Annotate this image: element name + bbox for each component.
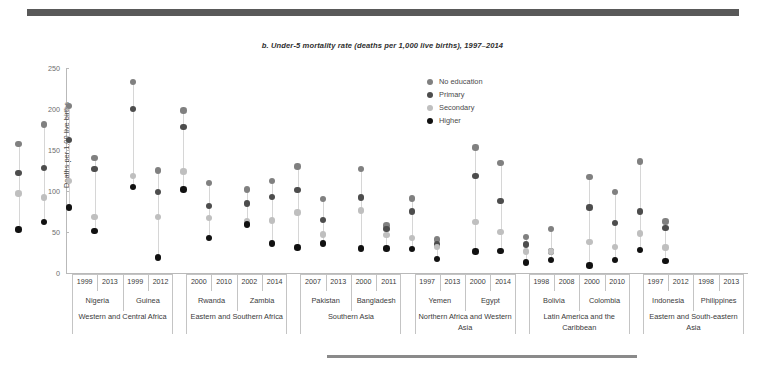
data-point-no-education[interactable]: [66, 103, 72, 109]
data-point-secondary[interactable]: [612, 244, 618, 250]
data-point-no-education[interactable]: [523, 234, 529, 240]
data-point-higher[interactable]: [91, 228, 97, 234]
data-point-no-education[interactable]: [244, 186, 250, 192]
legend-item-higher[interactable]: Higher: [427, 114, 577, 127]
data-point-secondary[interactable]: [523, 248, 529, 254]
data-point-secondary[interactable]: [637, 230, 643, 236]
data-point-primary[interactable]: [269, 194, 275, 200]
data-point-primary[interactable]: [294, 187, 300, 193]
axis-year-label: 1998: [693, 274, 718, 291]
data-point-higher[interactable]: [472, 248, 478, 254]
data-point-primary[interactable]: [586, 204, 592, 210]
data-point-no-education[interactable]: [586, 174, 592, 180]
data-point-primary[interactable]: [155, 189, 161, 195]
axis-country-label: Bangladesh: [351, 291, 402, 311]
data-point-higher[interactable]: [206, 235, 212, 241]
data-point-secondary[interactable]: [91, 214, 97, 220]
data-point-secondary[interactable]: [180, 168, 186, 174]
data-point-secondary[interactable]: [586, 239, 592, 245]
legend-item-no-education[interactable]: No education: [427, 75, 577, 88]
data-point-no-education[interactable]: [612, 189, 618, 195]
data-point-higher[interactable]: [41, 219, 47, 225]
data-point-higher[interactable]: [637, 247, 643, 253]
data-point-no-education[interactable]: [130, 79, 136, 85]
data-point-primary[interactable]: [612, 220, 618, 226]
data-point-higher[interactable]: [434, 256, 440, 262]
data-point-primary[interactable]: [523, 241, 529, 247]
data-point-no-education[interactable]: [41, 121, 47, 127]
data-point-higher[interactable]: [497, 248, 503, 254]
data-point-secondary[interactable]: [66, 178, 72, 184]
data-point-secondary[interactable]: [434, 244, 440, 250]
data-point-higher[interactable]: [662, 258, 668, 264]
data-point-no-education[interactable]: [155, 167, 161, 173]
data-point-higher[interactable]: [66, 204, 72, 210]
data-point-higher[interactable]: [294, 244, 300, 250]
data-point-primary[interactable]: [472, 173, 478, 179]
data-point-secondary[interactable]: [320, 231, 326, 237]
data-point-primary[interactable]: [409, 208, 415, 214]
data-point-secondary[interactable]: [409, 235, 415, 241]
data-point-primary[interactable]: [66, 137, 72, 143]
data-point-no-education[interactable]: [409, 195, 415, 201]
data-point-secondary[interactable]: [358, 207, 364, 213]
data-point-higher[interactable]: [409, 246, 415, 252]
data-point-higher[interactable]: [244, 221, 250, 227]
data-point-primary[interactable]: [358, 194, 364, 200]
data-point-higher[interactable]: [586, 262, 592, 268]
data-point-primary[interactable]: [497, 198, 503, 204]
data-point-higher[interactable]: [523, 259, 529, 265]
data-point-primary[interactable]: [41, 165, 47, 171]
data-point-no-education[interactable]: [358, 166, 364, 172]
data-point-higher[interactable]: [15, 226, 21, 232]
data-point-no-education[interactable]: [472, 144, 478, 150]
data-point-secondary[interactable]: [548, 248, 554, 254]
data-point-higher[interactable]: [320, 240, 326, 246]
data-point-higher[interactable]: [548, 257, 554, 263]
data-point-secondary[interactable]: [15, 190, 21, 196]
data-point-higher[interactable]: [130, 184, 136, 190]
data-point-primary[interactable]: [244, 200, 250, 206]
data-point-higher[interactable]: [180, 186, 186, 192]
data-point-higher[interactable]: [383, 245, 389, 251]
data-point-secondary[interactable]: [497, 229, 503, 235]
data-point-secondary[interactable]: [269, 217, 275, 223]
axis-year-row: 1999201319992012: [72, 274, 173, 291]
data-point-higher[interactable]: [612, 257, 618, 263]
data-point-primary[interactable]: [383, 226, 389, 232]
data-point-secondary[interactable]: [155, 214, 161, 220]
legend-item-secondary[interactable]: Secondary: [427, 101, 577, 114]
data-point-no-education[interactable]: [548, 226, 554, 232]
data-point-primary[interactable]: [662, 225, 668, 231]
data-point-no-education[interactable]: [497, 160, 503, 166]
data-point-secondary[interactable]: [130, 173, 136, 179]
data-point-primary[interactable]: [320, 217, 326, 223]
data-point-primary[interactable]: [15, 170, 21, 176]
data-point-no-education[interactable]: [320, 196, 326, 202]
data-point-primary[interactable]: [130, 106, 136, 112]
data-point-no-education[interactable]: [206, 180, 212, 186]
data-point-higher[interactable]: [269, 240, 275, 246]
data-point-no-education[interactable]: [91, 155, 97, 161]
data-point-secondary[interactable]: [206, 215, 212, 221]
data-point-no-education[interactable]: [662, 218, 668, 224]
data-point-no-education[interactable]: [294, 163, 300, 169]
data-point-higher[interactable]: [358, 245, 364, 251]
data-point-no-education[interactable]: [269, 178, 275, 184]
data-point-secondary[interactable]: [383, 232, 389, 238]
data-point-primary[interactable]: [180, 124, 186, 130]
bottom-divider-rule: [327, 355, 637, 358]
data-point-higher[interactable]: [155, 254, 161, 260]
data-point-primary[interactable]: [206, 203, 212, 209]
connector-line: [183, 111, 184, 190]
data-point-no-education[interactable]: [180, 107, 186, 113]
data-point-primary[interactable]: [91, 166, 97, 172]
data-point-secondary[interactable]: [662, 244, 668, 250]
data-point-secondary[interactable]: [472, 219, 478, 225]
data-point-no-education[interactable]: [637, 158, 643, 164]
data-point-no-education[interactable]: [15, 141, 21, 147]
data-point-secondary[interactable]: [294, 209, 300, 215]
data-point-secondary[interactable]: [41, 194, 47, 200]
data-point-primary[interactable]: [637, 208, 643, 214]
legend-item-primary[interactable]: Primary: [427, 88, 577, 101]
